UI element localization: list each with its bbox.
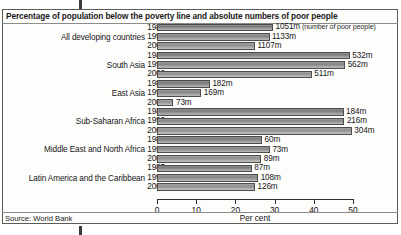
region-label: Sub-Saharan Africa <box>7 108 145 136</box>
bar-group: East Asia1985182m1990169m200073m <box>0 79 401 107</box>
bar-row: 1985182m <box>145 79 401 88</box>
x-axis-tick-label: 50 <box>348 205 357 215</box>
bar <box>157 71 312 79</box>
bar-group: Sub-Saharan Africa1985184m1990216m200030… <box>0 108 401 136</box>
bar-value-label: 216m <box>347 116 367 126</box>
region-label-wrap: South Asia <box>0 51 145 79</box>
region-label: Latin America and the Caribbean <box>7 164 145 192</box>
bar <box>157 99 173 107</box>
bar-group-bars: 1985184m1990216m2000304m <box>145 108 401 136</box>
bar-value-annotation: (number of poor people) <box>300 23 376 31</box>
bar-value-label: 1133m <box>272 32 296 42</box>
bar <box>157 42 255 50</box>
bar <box>157 183 255 191</box>
bar <box>157 165 252 173</box>
x-axis-tick-label: 40 <box>309 205 318 215</box>
region-label: South Asia <box>7 51 145 79</box>
bar-value-label: 73m <box>176 98 192 108</box>
bar-group: Middle East and North Africa198560m19907… <box>0 136 401 164</box>
x-axis-title: Per cent <box>240 214 271 223</box>
region-label: East Asia <box>7 79 145 107</box>
bar-value-label: 511m <box>314 69 333 79</box>
bar-value-label: 184m <box>346 107 366 117</box>
registration-mark-top <box>79 0 82 9</box>
bar-row: 2000511m <box>145 70 401 79</box>
x-axis-tick-label: 0 <box>155 205 160 215</box>
bar-group-bars: 198560m199073m200089m <box>145 136 401 164</box>
bar <box>157 61 345 69</box>
source-note: Source: World Bank <box>5 214 72 223</box>
bar-value-label: 87m <box>254 163 270 173</box>
bar <box>157 127 352 135</box>
bar <box>157 24 273 32</box>
region-label-wrap: Latin America and the Caribbean <box>0 164 145 192</box>
bar-group: All developing countries19851051m (numbe… <box>0 23 401 51</box>
bar <box>157 136 262 144</box>
bar <box>157 174 258 182</box>
bar-group-bars: 1985182m1990169m200073m <box>145 79 401 107</box>
bar-value-label: 73m <box>272 145 288 155</box>
bar-value-label: 182m <box>212 79 232 89</box>
bar-value-label: 169m <box>204 88 224 98</box>
bar-value-label: 562m <box>348 60 368 70</box>
x-axis-tick <box>275 199 276 204</box>
x-axis-tick-label: 10 <box>192 205 201 215</box>
bar-group-bars: 19851051m (number of poor people)1990113… <box>145 23 401 51</box>
x-axis-tick-label: 30 <box>270 205 279 215</box>
bar-group-bars: 1985532m1990562m2000511m <box>145 51 401 79</box>
x-axis-tick-label: 20 <box>231 205 240 215</box>
bar-value-label: 60m <box>265 135 281 145</box>
bar-row: 2000126m <box>145 183 401 192</box>
bar-value-label: 304m <box>354 126 374 136</box>
region-label: All developing countries <box>7 23 145 51</box>
chart-title: Percentage of population below the pover… <box>6 11 337 21</box>
poverty-chart-figure: Percentage of population below the pover… <box>0 0 401 235</box>
x-axis-tick <box>235 199 236 204</box>
x-axis-tick <box>314 199 315 204</box>
bar <box>157 118 344 126</box>
bar-group: South Asia1985532m1990562m2000511m <box>0 51 401 79</box>
bar <box>157 108 344 116</box>
x-axis-tick <box>196 199 197 204</box>
bar <box>157 80 210 88</box>
bar-row: 200089m <box>145 155 401 164</box>
region-label-wrap: All developing countries <box>0 23 145 51</box>
region-label: Middle East and North Africa <box>7 136 145 164</box>
bar-group: Latin America and the Caribbean198587m19… <box>0 164 401 192</box>
bar <box>157 146 270 154</box>
bar-value-label: 89m <box>264 154 280 164</box>
plot-area: All developing countries19851051m (numbe… <box>0 23 401 199</box>
bar <box>157 89 201 97</box>
bar <box>157 155 261 163</box>
bar-group-bars: 198587m1990108m2000126m <box>145 164 401 192</box>
source-divider <box>2 212 398 213</box>
registration-mark-bottom <box>79 226 82 235</box>
bar-row: 1990562m <box>145 61 401 70</box>
x-axis-line <box>157 199 353 200</box>
region-label-wrap: Sub-Saharan Africa <box>0 108 145 136</box>
bar <box>157 33 270 41</box>
bar-value-label: 126m <box>258 182 278 192</box>
x-axis-tick <box>157 199 158 204</box>
region-label-wrap: East Asia <box>0 79 145 107</box>
bar-value-label: 532m <box>352 51 372 61</box>
x-axis-tick <box>353 199 354 204</box>
bar <box>157 52 350 60</box>
bar-value-label: 1107m <box>258 41 282 51</box>
region-label-wrap: Middle East and North Africa <box>0 136 145 164</box>
bar-value-label: 108m <box>261 173 281 183</box>
